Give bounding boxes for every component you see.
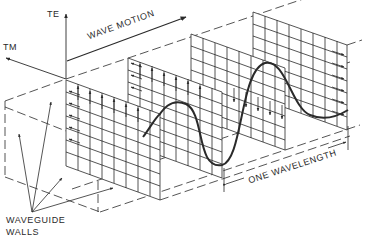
tm-label: TM xyxy=(3,42,17,52)
diagram-canvas xyxy=(0,0,370,242)
tm-axis-arrow-icon xyxy=(6,58,66,79)
waveguide-diagram: TE TM WAVE MOTION ONE WAVELENGTH WAVEGUI… xyxy=(0,0,370,242)
waveguide-label-line1: WAVEGUIDE xyxy=(6,215,65,225)
te-label: TE xyxy=(47,9,60,19)
waveguide-label-line2: WALLS xyxy=(6,227,39,237)
